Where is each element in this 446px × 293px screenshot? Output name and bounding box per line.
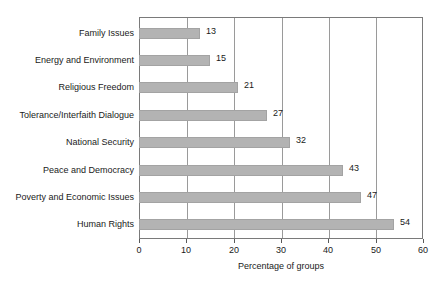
category-label: Peace and Democracy [0,165,134,176]
category-axis-labels: Family Issues Energy and Environment Rel… [0,17,134,239]
x-tick [423,239,424,243]
bar-row: 15 [139,55,423,66]
bar-row: 47 [139,192,423,203]
x-tick-label: 40 [318,245,338,256]
x-axis-title: Percentage of groups [139,261,423,272]
bars-layer: 13 15 21 27 32 43 47 54 [139,17,423,239]
category-label: Tolerance/Interfaith Dialogue [0,110,134,121]
bar-value-label: 15 [216,53,226,64]
bar-value-label: 27 [273,108,283,119]
x-tick [376,239,377,243]
category-label: Family Issues [0,28,134,39]
x-tick [139,239,140,243]
x-tick-label: 60 [413,245,433,256]
x-tick [281,239,282,243]
bar-row: 43 [139,165,423,176]
bar-value-label: 32 [296,135,306,146]
bar[interactable] [139,82,238,93]
bar[interactable] [139,55,210,66]
category-label: Energy and Environment [0,55,134,66]
x-tick [186,239,187,243]
bar-row: 27 [139,110,423,121]
x-tick-label: 0 [129,245,149,256]
bar[interactable] [139,192,361,203]
bar[interactable] [139,110,267,121]
category-label: Religious Freedom [0,82,134,93]
bar-value-label: 21 [244,80,254,91]
bar-row: 21 [139,82,423,93]
category-label: Poverty and Economic Issues [0,192,134,203]
bar-chart: Family Issues Energy and Environment Rel… [0,0,446,293]
bar[interactable] [139,165,343,176]
category-label: National Security [0,137,134,148]
x-tick [234,239,235,243]
x-tick-label: 50 [366,245,386,256]
bar-value-label: 54 [400,217,410,228]
bar-value-label: 13 [206,26,216,37]
bar[interactable] [139,219,394,230]
category-label: Human Rights [0,219,134,230]
bar-row: 54 [139,219,423,230]
bar-value-label: 47 [367,190,377,201]
x-tick-label: 30 [271,245,291,256]
x-tick-label: 20 [224,245,244,256]
bar-value-label: 43 [349,163,359,174]
bar[interactable] [139,28,200,39]
bar[interactable] [139,137,290,148]
bar-row: 13 [139,28,423,39]
bar-row: 32 [139,137,423,148]
x-tick [328,239,329,243]
x-tick-label: 10 [176,245,196,256]
